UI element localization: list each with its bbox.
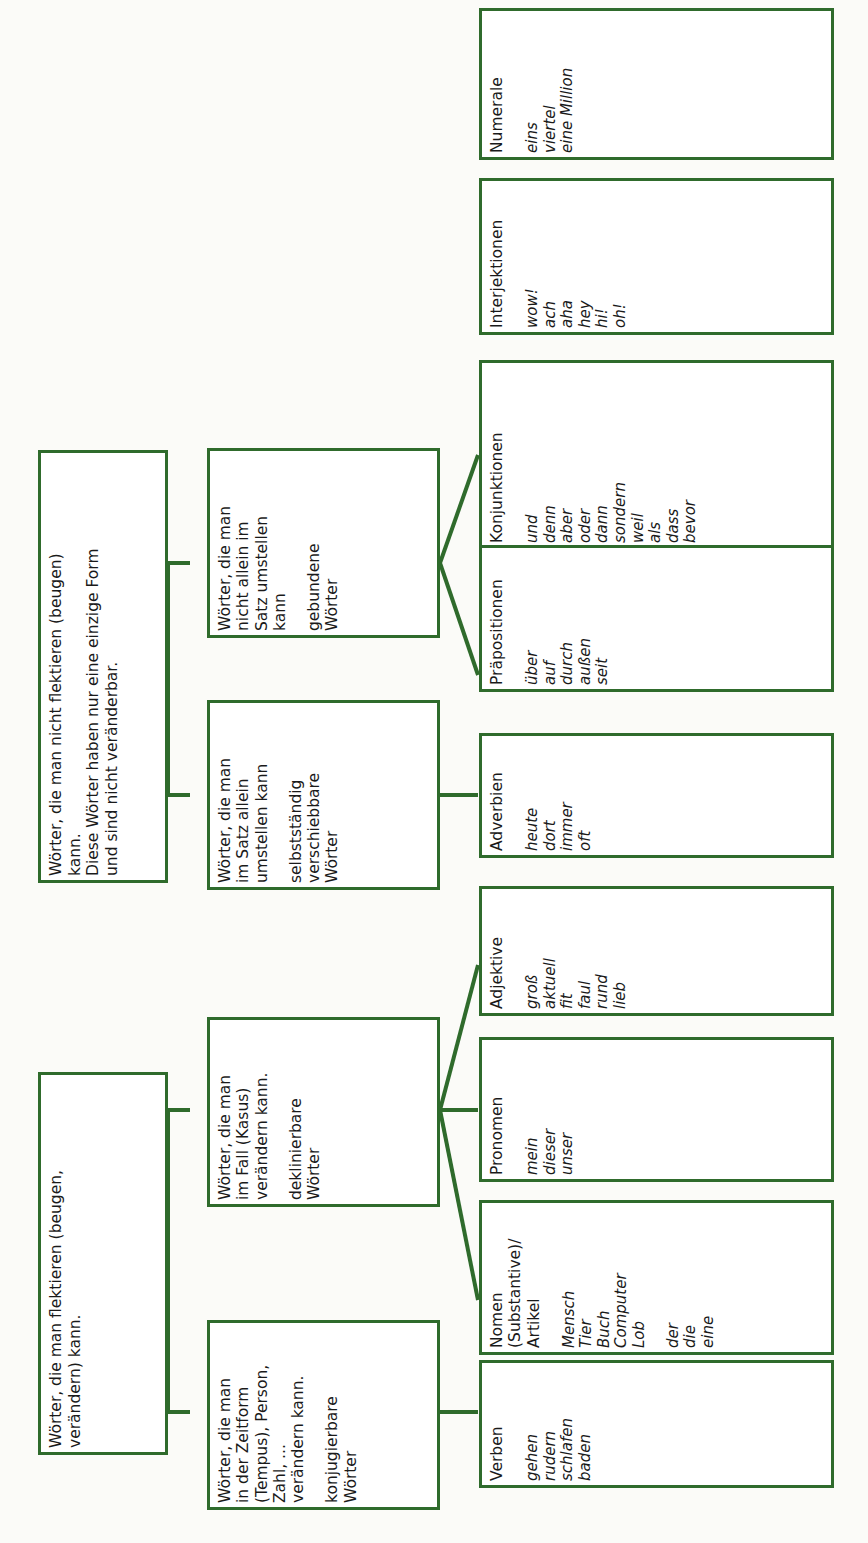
box-unflektierbar[interactable]: Wörter, die man nicht flektieren (beugen…	[38, 450, 168, 883]
box-interjektionen[interactable]: Interjektionen wow! ach aha hey hi! oh!	[479, 178, 834, 335]
link-gebundene-praepositionen	[440, 563, 478, 675]
wortarten-diagram: Wörter, die man nicht flektieren (beugen…	[0, 0, 868, 1543]
link-deklinierbar-nomen	[440, 1110, 478, 1300]
nomen-artikel-examples: der die eine	[665, 1213, 718, 1348]
praepositionen-examples: über auf durch außen seit	[524, 558, 612, 685]
verben-examples: gehen rudern schlafen baden	[524, 1373, 594, 1481]
konjunktionen-examples: und denn aber oder dann sondern weil als…	[524, 373, 699, 543]
adverbien-title: Adverbien	[488, 746, 506, 851]
adjektive-title: Adjektive	[488, 899, 506, 1009]
gebundene-label: gebundene Wörter	[305, 461, 342, 631]
link-gebundene-konjunktionen	[440, 455, 478, 563]
konjunktionen-title: Konjunktionen	[488, 373, 506, 543]
nomen-title: Nomen (Substantive)/ Artikel	[488, 1213, 543, 1348]
interjektionen-examples: wow! ach aha hey hi! oh!	[524, 191, 629, 328]
pronomen-title: Pronomen	[488, 1050, 506, 1175]
numerale-examples: eins viertel eine Million	[524, 21, 577, 153]
interjektionen-title: Interjektionen	[488, 191, 506, 328]
box-gebundene-woerter[interactable]: Wörter, die man nicht allein im Satz ums…	[207, 448, 440, 638]
praepositionen-title: Präpositionen	[488, 558, 506, 685]
box-verben[interactable]: Verben gehen rudern schlafen baden	[479, 1360, 834, 1488]
pronomen-examples: mein dieser unser	[524, 1050, 577, 1175]
deklinierbar-description: Wörter, die man im Fall (Kasus) veränder…	[216, 1030, 271, 1200]
numerale-title: Numerale	[488, 21, 506, 153]
box-konjunktionen[interactable]: Konjunktionen und denn aber oder dann so…	[479, 360, 834, 550]
box-deklinierbare-woerter[interactable]: Wörter, die man im Fall (Kasus) veränder…	[207, 1017, 440, 1207]
link-deklinierbar-adjektive	[440, 965, 478, 1110]
box-adjektive[interactable]: Adjektive groß aktuell fit faul rund lie…	[479, 886, 834, 1016]
verben-title: Verben	[488, 1373, 506, 1481]
deklinierbar-label: deklinierbare Wörter	[287, 1030, 324, 1200]
box-numerale[interactable]: Numerale eins viertel eine Million	[479, 8, 834, 160]
box-praepositionen[interactable]: Präpositionen über auf durch außen seit	[479, 545, 834, 692]
konjugierbar-description: Wörter, die man in der Zeitform (Tempus)…	[216, 1333, 307, 1503]
box-selbststaendig-woerter[interactable]: Wörter, die man im Satz allein umstellen…	[207, 700, 440, 890]
box-konjugierbare-woerter[interactable]: Wörter, die man in der Zeitform (Tempus)…	[207, 1320, 440, 1510]
box-flektierbar[interactable]: Wörter, die man flektieren (beugen, verä…	[38, 1072, 168, 1455]
flektierbar-description: Wörter, die man flektieren (beugen, verä…	[47, 1085, 84, 1448]
gebundene-description: Wörter, die man nicht allein im Satz ums…	[216, 461, 289, 631]
konjugierbar-label: konjugierbare Wörter	[323, 1333, 360, 1503]
unflektierbar-description: Wörter, die man nicht flektieren (beugen…	[47, 463, 121, 876]
selbststaendig-description: Wörter, die man im Satz allein umstellen…	[216, 713, 271, 883]
box-pronomen[interactable]: Pronomen mein dieser unser	[479, 1037, 834, 1182]
adverbien-examples: heute dort immer oft	[524, 746, 594, 851]
box-nomen-artikel[interactable]: Nomen (Substantive)/ Artikel Mensch Tier…	[479, 1200, 834, 1355]
nomen-examples: Mensch Tier Buch Computer Lob	[561, 1213, 649, 1348]
adjektive-examples: groß aktuell fit faul rund lieb	[524, 899, 629, 1009]
box-adverbien[interactable]: Adverbien heute dort immer oft	[479, 733, 834, 858]
selbststaendig-label: selbstständig verschiebbare Wörter	[287, 713, 342, 883]
